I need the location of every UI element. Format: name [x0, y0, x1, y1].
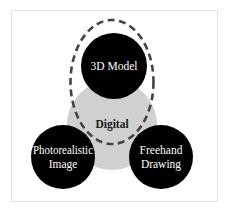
- digital-label: Digital: [95, 118, 128, 131]
- venn-diagram: 3D Model Digital Photorealistic Image Fr…: [0, 0, 230, 211]
- photorealistic-image-label-line1: Photorealistic: [33, 144, 93, 156]
- freehand-drawing-label-line1: Freehand: [140, 144, 183, 156]
- 3d-model-label: 3D Model: [91, 60, 138, 72]
- freehand-drawing-circle: [129, 125, 193, 189]
- photorealistic-image-circle: [31, 125, 95, 189]
- photorealistic-image-label-line2: Image: [49, 158, 78, 171]
- freehand-drawing-label-line2: Drawing: [141, 158, 181, 171]
